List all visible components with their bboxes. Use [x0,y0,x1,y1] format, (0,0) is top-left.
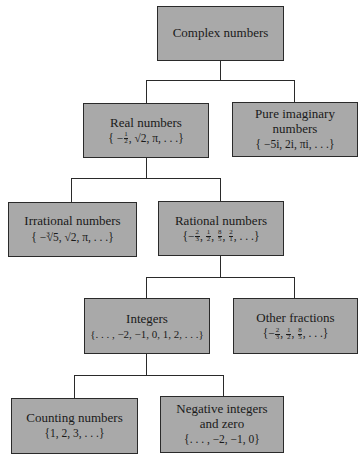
node-complex-numbers: Complex numbers [157,6,284,61]
connector-to-negative-integers [223,375,224,396]
node-title-line2: and zero [200,417,244,432]
node-title: Counting numbers [26,411,122,426]
node-title-line1: Negative integers [176,402,267,417]
node-integers: Integers {. . . , −2, −1, 0, 1, 2, . . .… [84,298,210,354]
node-set: { −12, √2, π, . . .} [108,132,183,146]
connector-integers-down [146,353,147,376]
fraction: 12 [124,132,129,145]
connector-to-counting [74,375,75,398]
node-set: {. . . , −2, −1, 0} [184,433,260,446]
connector-real-down [146,157,147,179]
node-set: { −3√5, √2, π, . . .} [31,230,113,244]
node-real-numbers: Real numbers { −12, √2, π, . . .} [83,103,209,158]
node-set: {−23, 12, 85, 21, . . .} [183,230,260,244]
node-set: {1, 2, 3, . . .} [45,427,105,440]
node-title-line1: Pure imaginary [255,107,335,122]
node-irrational-numbers: Irrational numbers { −3√5, √2, π, . . .} [8,202,137,257]
connector-to-pure-imaginary [294,80,295,102]
node-rational-numbers: Rational numbers {−23, 12, 85, 21, . . .… [158,201,284,256]
node-title: Other fractions [256,311,334,326]
node-title: Complex numbers [173,26,269,41]
connector-rational-branch [146,277,295,278]
node-set: {−23, 12, 85, . . .} [263,327,329,341]
connector-complex-branch [146,80,295,81]
node-pure-imaginary-numbers: Pure imaginary numbers { −5i, 2i, πi, . … [232,102,358,157]
node-title-line2: numbers [273,122,318,137]
connector-to-rational [220,178,221,201]
node-title: Real numbers [110,116,182,131]
connector-to-other-fractions [294,277,295,298]
node-set: { −5i, 2i, πi, . . .} [256,138,335,151]
connector-integers-branch [74,375,224,376]
connector-real-branch [71,178,221,179]
connector-to-integers [146,277,147,298]
node-negative-integers-and-zero: Negative integers and zero {. . . , −2, … [160,396,284,453]
node-title: Rational numbers [175,214,267,229]
connector-rational-down [220,255,221,278]
node-counting-numbers: Counting numbers {1, 2, 3, . . .} [11,398,138,454]
node-set: {. . . , −2, −1, 0, 1, 2, . . .} [90,328,204,341]
node-title: Irrational numbers [24,214,120,229]
connector-to-real [146,80,147,103]
connector-to-irrational [71,178,72,202]
node-other-fractions: Other fractions {−23, 12, 85, . . .} [233,298,358,354]
node-title: Integers [126,312,168,327]
connector-complex-down [220,60,221,81]
